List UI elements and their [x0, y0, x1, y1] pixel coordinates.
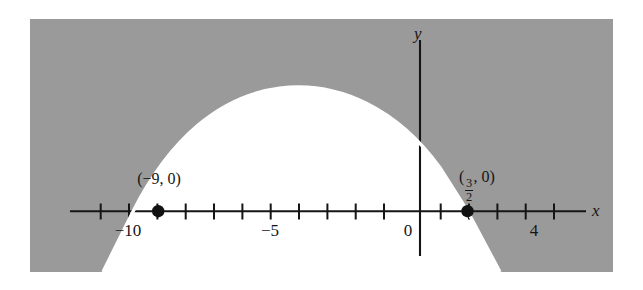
fraction-numerator: 3 — [465, 177, 473, 191]
x-tick-label--5: −5 — [261, 222, 279, 239]
y-axis-label: y — [414, 25, 422, 42]
figure-container: y x −10 −5 0 4 (−9, 0) (32, 0) — [0, 0, 643, 290]
point-label-right: (32, 0) — [459, 169, 495, 204]
fraction-three-halves: 32 — [465, 177, 473, 204]
fraction-denominator: 2 — [465, 191, 473, 204]
x-axis-label: x — [592, 202, 600, 219]
x-tick-label--10: −10 — [115, 222, 142, 239]
x-tick-label-0: 0 — [404, 222, 413, 239]
x-tick-label-4: 4 — [530, 222, 539, 239]
root-marker-left — [152, 205, 164, 217]
point-label-left: (−9, 0) — [137, 171, 181, 187]
point-label-right-open-paren: ( — [459, 168, 464, 185]
root-marker-right — [461, 205, 473, 217]
plot-panel: y x −10 −5 0 4 (−9, 0) (32, 0) — [30, 19, 613, 272]
point-label-right-close: , 0) — [474, 168, 495, 185]
